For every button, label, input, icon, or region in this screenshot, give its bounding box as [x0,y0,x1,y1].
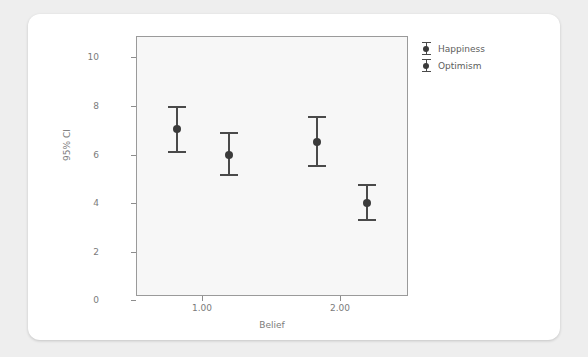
plot-area [136,36,408,296]
x-axis-title: Belief [136,320,408,330]
legend: Happiness Optimism [420,40,550,74]
data-point-marker[interactable] [313,138,321,146]
errorbar-cap-lower [220,174,238,176]
data-point-marker[interactable] [225,151,233,159]
legend-item-optimism[interactable]: Optimism [420,57,550,74]
errorbar-cap-upper [220,132,238,134]
y-tick-label-2: 2 [59,248,99,257]
y-tick-label-10: 10 [59,53,99,62]
y-axis-title: 95% CI [62,100,72,190]
data-point-marker[interactable] [363,199,371,207]
x-tick-label-1: 1.00 [177,304,227,313]
errorbar-cap-lower [358,219,376,221]
legend-item-happiness[interactable]: Happiness [420,40,550,57]
plot-inner [137,37,407,295]
x-tick-label-2: 2.00 [315,304,365,313]
y-tick-label-4: 4 [59,199,99,208]
x-tick-mark-2 [340,296,341,301]
error-bar-chart: 95% CI 10 8 6 4 2 0 [28,14,560,340]
errorbar-dot-marker-icon [420,41,433,56]
legend-label-happiness: Happiness [438,44,485,54]
x-tick-mark-1 [202,296,203,301]
errorbar-cap-lower [308,165,326,167]
errorbar-cap-upper [168,106,186,108]
legend-label-optimism: Optimism [438,61,482,71]
errorbar-cap-lower [168,151,186,153]
data-point-marker[interactable] [173,125,181,133]
errorbar-cap-upper [308,116,326,118]
y-tick-label-0: 0 [59,296,99,305]
y-tick-label-6: 6 [59,151,99,160]
chart-card: 95% CI 10 8 6 4 2 0 [28,14,560,340]
y-tick-label-8: 8 [59,102,99,111]
y-tick-mark-0 [131,300,136,301]
errorbar-dot-marker-icon [420,58,433,73]
errorbar-cap-upper [358,184,376,186]
